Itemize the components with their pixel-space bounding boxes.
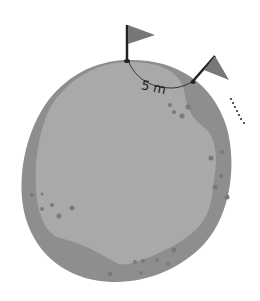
flag-icon-left [124,25,155,63]
flag-icon-right [191,56,230,84]
diagram-canvas: 5 m [0,0,260,301]
dotted-trail [230,98,245,124]
